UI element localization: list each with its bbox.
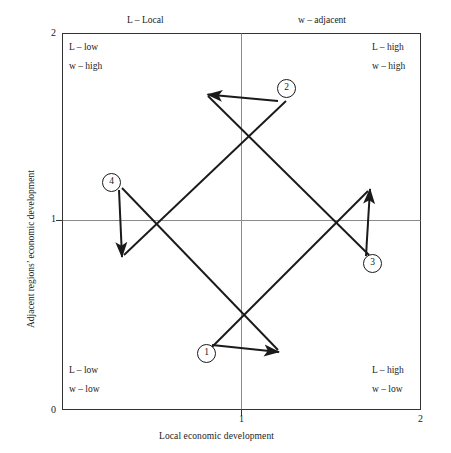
quadrant-top-left-line2: w – high (69, 62, 102, 72)
diagonal-line-b (208, 96, 369, 255)
y-tick-label-2: 2 (51, 28, 56, 38)
quadrant-bottom-left-line1: L – low (69, 366, 98, 376)
quadrant-top-right-line1: L – high (372, 43, 404, 53)
y-axis-title: Adjacent regions’ economic development (26, 170, 36, 328)
figure-container: L – Local w – adjacent L – low w – high … (0, 0, 451, 453)
arrow-marker-3[interactable]: 3 (363, 254, 382, 273)
diagonal-line-a (124, 101, 286, 255)
arrow-2-shaft (208, 95, 279, 102)
y-tick-label-0: 0 (51, 405, 56, 415)
header-left: L – Local (127, 16, 164, 26)
arrow-marker-2[interactable]: 2 (277, 79, 296, 98)
quadrant-bottom-right-line1: L – high (372, 366, 404, 376)
quadrant-top-left-line1: L – low (69, 43, 98, 53)
quadrant-top-right-line2: w – high (372, 62, 405, 72)
diagonal-line-d (211, 191, 368, 348)
quadrant-bottom-right-line2: w – low (372, 385, 403, 395)
y-tick-label-1: 1 (51, 214, 56, 224)
x-tick-label-1: 1 (239, 414, 244, 424)
arrow-1-shaft (212, 345, 279, 352)
arrow-4-shaft (119, 190, 122, 257)
header-right: w – adjacent (298, 16, 346, 26)
x-tick-label-2: 2 (418, 414, 423, 424)
arrow-3-shaft (366, 189, 370, 256)
arrow-marker-1[interactable]: 1 (197, 344, 216, 363)
arrow-marker-4[interactable]: 4 (102, 173, 121, 192)
quadrant-bottom-left-line2: w – low (69, 385, 100, 395)
x-axis-title: Local economic development (159, 432, 274, 442)
diagonal-line-c (122, 188, 278, 350)
